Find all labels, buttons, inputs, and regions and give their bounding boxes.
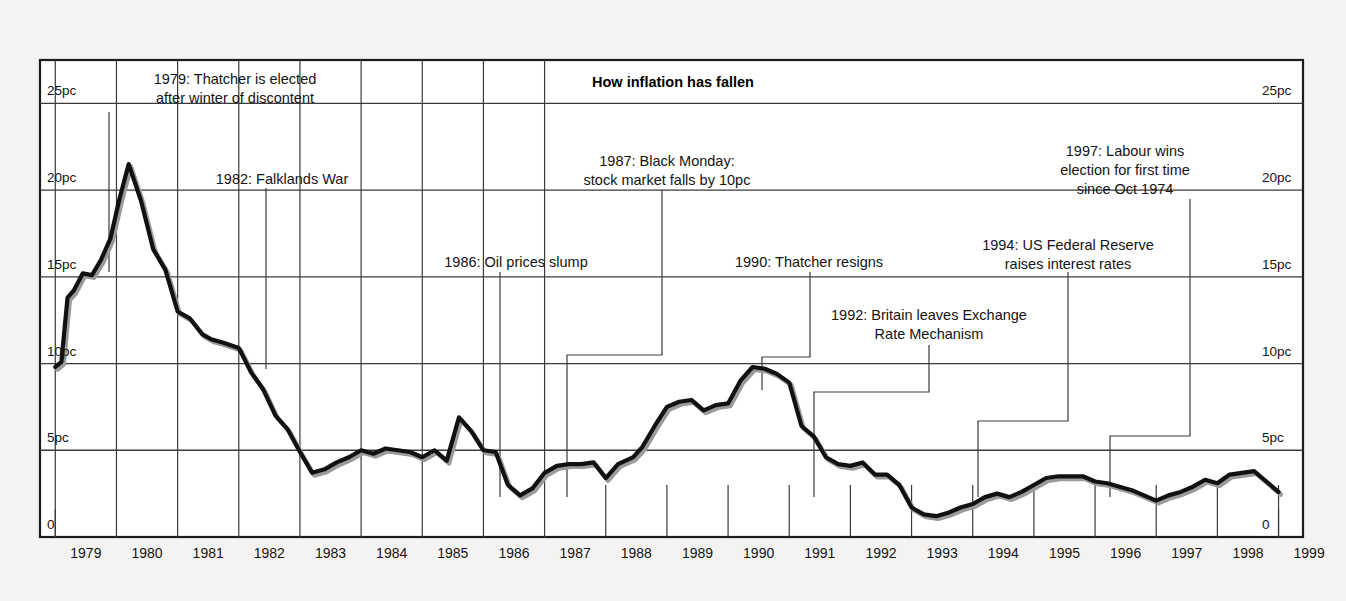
y-axis-left-label-0: 0 bbox=[47, 517, 55, 532]
year-label-1993: 1993 bbox=[912, 545, 972, 561]
year-label-1981: 1981 bbox=[178, 545, 238, 561]
year-label-1997: 1997 bbox=[1157, 545, 1217, 561]
year-label-1995: 1995 bbox=[1034, 545, 1094, 561]
plot-area bbox=[40, 60, 1303, 537]
year-label-1983: 1983 bbox=[301, 545, 361, 561]
year-label-1982: 1982 bbox=[239, 545, 299, 561]
year-label-1996: 1996 bbox=[1096, 545, 1156, 561]
ann-1987-label: 1987: Black Monday: stock market falls b… bbox=[507, 152, 827, 190]
ann-1979-label: 1979: Thatcher is elected after winter o… bbox=[75, 70, 395, 108]
year-label-1994: 1994 bbox=[973, 545, 1033, 561]
year-label-1979: 1979 bbox=[56, 545, 116, 561]
year-label-1984: 1984 bbox=[362, 545, 422, 561]
y-axis-right-label-10: 10pc bbox=[1262, 344, 1291, 359]
year-label-1988: 1988 bbox=[606, 545, 666, 561]
y-axis-right-label-15: 15pc bbox=[1262, 257, 1291, 272]
year-label-1992: 1992 bbox=[851, 545, 911, 561]
y-axis-right-label-0: 0 bbox=[1262, 517, 1270, 532]
year-label-1990: 1990 bbox=[729, 545, 789, 561]
ann-1997-label: 1997: Labour wins election for first tim… bbox=[965, 142, 1285, 199]
y-axis-right-label-5: 5pc bbox=[1262, 430, 1284, 445]
year-label-1987: 1987 bbox=[545, 545, 605, 561]
year-label-1986: 1986 bbox=[484, 545, 544, 561]
year-label-1998: 1998 bbox=[1218, 545, 1278, 561]
y-axis-right-label-25: 25pc bbox=[1262, 83, 1291, 98]
year-label-1989: 1989 bbox=[667, 545, 727, 561]
ann-1992-label: 1992: Britain leaves Exchange Rate Mecha… bbox=[769, 306, 1089, 344]
ann-1982-label: 1982: Falklands War bbox=[122, 170, 442, 189]
year-label-1980: 1980 bbox=[117, 545, 177, 561]
year-label-1985: 1985 bbox=[423, 545, 483, 561]
y-axis-left-label-20: 20pc bbox=[47, 170, 76, 185]
chart-figure: How inflation has fallen 25pc20pc15pc10p… bbox=[0, 0, 1346, 601]
year-label-1991: 1991 bbox=[790, 545, 850, 561]
chart-frame bbox=[40, 60, 1303, 537]
y-axis-left-label-5: 5pc bbox=[47, 430, 69, 445]
year-label-1999: 1999 bbox=[1279, 545, 1339, 561]
ann-1986-label: 1986: Oil prices slump bbox=[356, 253, 676, 272]
y-axis-left-label-25: 25pc bbox=[47, 83, 76, 98]
y-axis-left-label-15: 15pc bbox=[47, 257, 76, 272]
ann-1994-label: 1994: US Federal Reserve raises interest… bbox=[908, 236, 1228, 274]
y-axis-left-label-10: 10pc bbox=[47, 344, 76, 359]
